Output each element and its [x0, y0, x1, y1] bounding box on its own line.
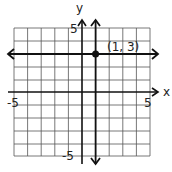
coordinate-plane: (1, 3) y x -5 5 5 -5: [0, 0, 172, 172]
y-min-label: -5: [62, 149, 74, 163]
intersection-point: [92, 51, 99, 58]
y-max-label: 5: [70, 22, 78, 36]
x-min-label: -5: [7, 96, 19, 110]
x-axis-label: x: [163, 85, 170, 99]
y-axis-label: y: [76, 1, 83, 15]
x-axis: [8, 88, 158, 96]
point-label: (1, 3): [107, 40, 139, 54]
x-max-label: 5: [144, 96, 152, 110]
